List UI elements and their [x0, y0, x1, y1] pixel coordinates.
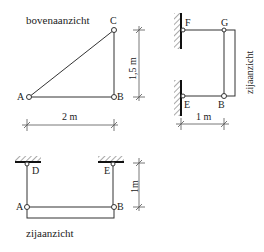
beam-side [224, 30, 235, 96]
dim-label-2m: 2 m [62, 112, 77, 122]
point-label-G: G [221, 18, 228, 28]
right-view-title: zijaanzicht [245, 51, 255, 94]
point-label-E: E [184, 100, 190, 110]
point-label-B: B [218, 100, 225, 110]
hinge-B-icon [112, 95, 117, 100]
dim-label-1m: 1 m [196, 112, 211, 122]
hinge-E-icon [181, 94, 185, 98]
beam-side [27, 207, 114, 218]
dim-label-1m-vertical: 1m [130, 180, 140, 193]
hinge-A-icon [25, 205, 30, 210]
point-label-F: F [185, 18, 191, 28]
point-label-B: B [117, 202, 124, 212]
hinge-E-icon [111, 162, 115, 166]
hinge-B-icon [222, 94, 227, 99]
point-label-D: D [32, 166, 39, 176]
hinge-B-icon [112, 205, 117, 210]
hinge-F-icon [181, 28, 185, 32]
point-label-A: A [16, 202, 23, 212]
hinge-G-icon [222, 28, 226, 32]
member-AC [29, 30, 114, 97]
point-label-C: C [110, 16, 117, 26]
right-view-walls [174, 13, 181, 116]
hinge-D-icon [25, 162, 29, 166]
hinge-C-icon [112, 28, 117, 33]
wall-hatch-bottom-icon [174, 80, 181, 116]
dim-label-1-5m: 1,5 m [128, 57, 138, 80]
right-view-structure [181, 28, 235, 99]
point-label-A: A [17, 92, 24, 102]
point-label-B: B [117, 92, 124, 102]
diagram-canvas [0, 0, 264, 252]
bottom-view-ceilings [15, 156, 124, 162]
point-label-E: E [104, 166, 110, 176]
top-view-structure [27, 28, 117, 100]
bottom-view-title: zijaanzicht [26, 228, 74, 238]
top-view-title: bovenaanzicht [26, 15, 90, 25]
hinge-A-icon [27, 95, 32, 100]
wall-hatch-top-icon [174, 13, 181, 49]
